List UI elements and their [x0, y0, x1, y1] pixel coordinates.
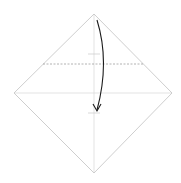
- paper-diamond: [14, 14, 172, 173]
- fold-arrow-icon: [97, 20, 104, 110]
- origami-diagram: [0, 0, 181, 183]
- diagram-svg: [0, 0, 181, 183]
